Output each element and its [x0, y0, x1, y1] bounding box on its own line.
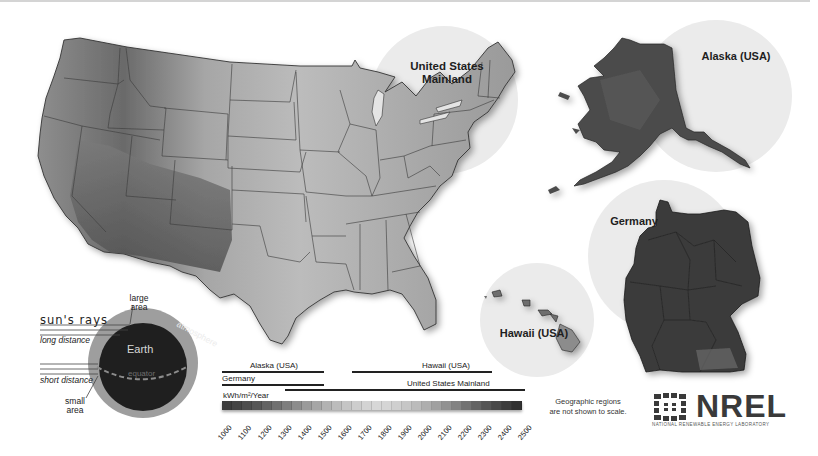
legend-tick: 1800 [376, 423, 394, 442]
short-distance-label: short distance [40, 375, 93, 385]
legend-range-alaska-line [222, 371, 324, 373]
nrel-subtitle: NATIONAL RENEWABLE ENERGY LABORATORY [652, 422, 769, 427]
legend-tick: 2000 [416, 423, 434, 442]
ramp-swatch [362, 401, 372, 410]
legend-range-alaska-label: Alaska (USA) [250, 361, 298, 370]
legend-tick: 2100 [436, 423, 454, 442]
legend-tick: 1900 [396, 423, 414, 442]
sun-rays-label: sun's rays [40, 313, 108, 327]
equator-label: equator [128, 369, 155, 378]
legend-tick: 1300 [276, 423, 294, 442]
ramp-swatch [232, 401, 242, 410]
color-ramp [222, 401, 522, 410]
ramp-swatch [262, 401, 272, 410]
legend-range-us-mainland-line [285, 389, 525, 391]
legend-tick: 1400 [296, 423, 314, 442]
solar-resource-legend: Alaska (USA) Germany Hawaii (USA) United… [222, 360, 528, 456]
small-area-line2: area [60, 406, 90, 415]
earth-label: Earth [127, 343, 153, 355]
ramp-swatch [462, 401, 472, 410]
legend-tick: 1500 [316, 423, 334, 442]
legend-tick: 1100 [236, 424, 253, 442]
us-mainland-label-line2: Mainland [392, 73, 502, 86]
ramp-swatch [222, 401, 232, 410]
ramp-swatch [392, 401, 402, 410]
ramp-swatch [442, 401, 452, 410]
ramp-swatch [482, 401, 492, 410]
small-area-label: small area [60, 397, 90, 414]
long-distance-label: long distance [40, 335, 90, 345]
legend-range-us-mainland-label: United States Mainland [407, 379, 490, 388]
ramp-swatch [292, 401, 302, 410]
ramp-swatch [502, 401, 512, 410]
ramp-swatch [312, 401, 322, 410]
nrel-wordmark: NREL [696, 388, 787, 425]
us-mainland-label: United States Mainland [392, 60, 502, 86]
ramp-swatch [322, 401, 332, 410]
legend-range-hawaii-line [352, 371, 492, 373]
ramp-swatch [372, 401, 382, 410]
ramp-swatch [342, 401, 352, 410]
legend-range-hawaii-label: Hawaii (USA) [422, 361, 470, 370]
scale-note: Geographic regions are not shown to scal… [543, 397, 633, 417]
us-mainland-label-line1: United States [392, 60, 502, 73]
legend-tick: 2300 [476, 423, 494, 442]
nrel-logo-icon [652, 392, 692, 422]
legend-tick: 1200 [256, 423, 274, 442]
alaska-label: Alaska (USA) [691, 50, 781, 63]
ramp-swatch [352, 401, 362, 410]
ramp-swatch [242, 401, 252, 410]
ramp-swatch [272, 401, 282, 410]
ramp-swatch [382, 401, 392, 410]
large-area-label: large area [124, 294, 154, 311]
ramp-swatch [402, 401, 412, 410]
nrel-logo: NREL NATIONAL RENEWABLE ENERGY LABORATOR… [652, 392, 797, 430]
ramp-swatch [302, 401, 312, 410]
ramp-swatch [472, 401, 482, 410]
legend-tick-labels: 1000110012001300140015001600170018001900… [222, 414, 522, 444]
hawaii-label: Hawaii (USA) [494, 327, 574, 340]
earth-circle [99, 323, 187, 411]
legend-tick: 2200 [456, 423, 474, 442]
legend-range-germany-line [222, 384, 324, 386]
legend-tick: 1700 [356, 423, 374, 442]
ramp-swatch [252, 401, 262, 410]
ramp-swatch [412, 401, 422, 410]
ramp-swatch [282, 401, 292, 410]
scale-note-line1: Geographic regions [543, 397, 633, 407]
scale-note-line2: are not shown to scale. [543, 407, 633, 417]
ramp-swatch [432, 401, 442, 410]
ramp-swatch [492, 401, 502, 410]
large-area-line2: area [124, 303, 154, 312]
legend-tick: 2400 [496, 423, 514, 442]
legend-range-germany-label: Germany [222, 374, 255, 383]
legend-unit-label: kWh/m²/Year [223, 391, 269, 400]
ramp-swatch [512, 401, 522, 410]
germany-label: Germany [604, 215, 664, 228]
legend-tick: 1600 [336, 423, 354, 442]
ramp-swatch [332, 401, 342, 410]
ramp-swatch [422, 401, 432, 410]
ramp-swatch [452, 401, 462, 410]
